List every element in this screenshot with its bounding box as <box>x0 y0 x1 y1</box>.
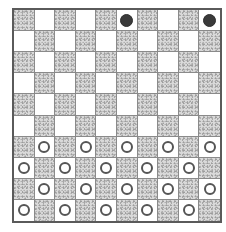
board-square-r4c6[interactable] <box>138 94 159 115</box>
board-square-r9c8[interactable] <box>179 200 200 221</box>
white-piece[interactable] <box>204 183 216 195</box>
board-square-r0c1[interactable] <box>35 10 56 31</box>
board-square-r8c1[interactable] <box>35 179 56 200</box>
board-square-r0c9[interactable] <box>199 10 220 31</box>
board-square-r9c6[interactable] <box>138 200 159 221</box>
board-square-r4c9[interactable] <box>199 94 220 115</box>
board-square-r0c0[interactable] <box>14 10 35 31</box>
board-square-r9c9[interactable] <box>199 200 220 221</box>
board-square-r6c1[interactable] <box>35 137 56 158</box>
white-piece[interactable] <box>38 141 50 153</box>
board-square-r8c7[interactable] <box>158 179 179 200</box>
board-square-r7c9[interactable] <box>199 158 220 179</box>
white-piece[interactable] <box>121 183 133 195</box>
board-square-r1c5[interactable] <box>117 31 138 52</box>
board-square-r6c0[interactable] <box>14 137 35 158</box>
black-piece[interactable] <box>120 14 133 27</box>
board-square-r0c5[interactable] <box>117 10 138 31</box>
board-square-r1c9[interactable] <box>199 31 220 52</box>
board-square-r7c3[interactable] <box>76 158 97 179</box>
white-piece[interactable] <box>183 204 195 216</box>
board-square-r1c3[interactable] <box>76 31 97 52</box>
board-square-r6c4[interactable] <box>96 137 117 158</box>
white-piece[interactable] <box>204 141 216 153</box>
board-square-r9c0[interactable] <box>14 200 35 221</box>
board-square-r0c6[interactable] <box>138 10 159 31</box>
board-square-r6c5[interactable] <box>117 137 138 158</box>
board-square-r7c4[interactable] <box>96 158 117 179</box>
board-square-r8c3[interactable] <box>76 179 97 200</box>
board-square-r7c8[interactable] <box>179 158 200 179</box>
board-square-r2c2[interactable] <box>55 52 76 73</box>
board-square-r4c8[interactable] <box>179 94 200 115</box>
board-square-r7c1[interactable] <box>35 158 56 179</box>
board-square-r2c6[interactable] <box>138 52 159 73</box>
white-piece[interactable] <box>18 204 30 216</box>
board-square-r4c7[interactable] <box>158 94 179 115</box>
white-piece[interactable] <box>162 183 174 195</box>
board-square-r8c4[interactable] <box>96 179 117 200</box>
board-square-r3c6[interactable] <box>138 73 159 94</box>
board-square-r2c8[interactable] <box>179 52 200 73</box>
board-square-r9c5[interactable] <box>117 200 138 221</box>
board-square-r8c2[interactable] <box>55 179 76 200</box>
board-square-r9c3[interactable] <box>76 200 97 221</box>
white-piece[interactable] <box>59 162 71 174</box>
black-piece[interactable] <box>203 14 216 27</box>
white-piece[interactable] <box>141 204 153 216</box>
board-square-r8c8[interactable] <box>179 179 200 200</box>
board-square-r2c3[interactable] <box>76 52 97 73</box>
board-square-r4c4[interactable] <box>96 94 117 115</box>
board-square-r6c2[interactable] <box>55 137 76 158</box>
board-square-r5c4[interactable] <box>96 116 117 137</box>
white-piece[interactable] <box>121 141 133 153</box>
board-square-r5c0[interactable] <box>14 116 35 137</box>
board-square-r0c3[interactable] <box>76 10 97 31</box>
board-square-r1c0[interactable] <box>14 31 35 52</box>
board-square-r6c3[interactable] <box>76 137 97 158</box>
board-square-r3c4[interactable] <box>96 73 117 94</box>
board-square-r0c7[interactable] <box>158 10 179 31</box>
board-square-r1c2[interactable] <box>55 31 76 52</box>
board-square-r1c8[interactable] <box>179 31 200 52</box>
board-square-r7c2[interactable] <box>55 158 76 179</box>
board-square-r5c5[interactable] <box>117 116 138 137</box>
board-square-r3c0[interactable] <box>14 73 35 94</box>
board-square-r7c6[interactable] <box>138 158 159 179</box>
board-square-r2c0[interactable] <box>14 52 35 73</box>
board-square-r8c9[interactable] <box>199 179 220 200</box>
white-piece[interactable] <box>141 162 153 174</box>
board-square-r4c1[interactable] <box>35 94 56 115</box>
board-square-r6c7[interactable] <box>158 137 179 158</box>
board-square-r3c1[interactable] <box>35 73 56 94</box>
board-square-r2c1[interactable] <box>35 52 56 73</box>
white-piece[interactable] <box>100 204 112 216</box>
white-piece[interactable] <box>38 183 50 195</box>
board-square-r9c1[interactable] <box>35 200 56 221</box>
board-square-r3c3[interactable] <box>76 73 97 94</box>
board-square-r2c9[interactable] <box>199 52 220 73</box>
board-square-r5c9[interactable] <box>199 116 220 137</box>
board-square-r6c8[interactable] <box>179 137 200 158</box>
board-square-r0c8[interactable] <box>179 10 200 31</box>
board-square-r0c4[interactable] <box>96 10 117 31</box>
board-square-r8c6[interactable] <box>138 179 159 200</box>
white-piece[interactable] <box>100 162 112 174</box>
white-piece[interactable] <box>18 162 30 174</box>
board-square-r5c6[interactable] <box>138 116 159 137</box>
board-square-r2c7[interactable] <box>158 52 179 73</box>
board-square-r9c2[interactable] <box>55 200 76 221</box>
board-square-r9c7[interactable] <box>158 200 179 221</box>
board-square-r3c5[interactable] <box>117 73 138 94</box>
board-square-r7c5[interactable] <box>117 158 138 179</box>
white-piece[interactable] <box>162 141 174 153</box>
board-square-r1c4[interactable] <box>96 31 117 52</box>
board-square-r3c2[interactable] <box>55 73 76 94</box>
board-square-r1c7[interactable] <box>158 31 179 52</box>
board-square-r6c9[interactable] <box>199 137 220 158</box>
board-square-r4c2[interactable] <box>55 94 76 115</box>
board-square-r3c7[interactable] <box>158 73 179 94</box>
board-square-r4c0[interactable] <box>14 94 35 115</box>
board-square-r4c5[interactable] <box>117 94 138 115</box>
board-square-r6c6[interactable] <box>138 137 159 158</box>
